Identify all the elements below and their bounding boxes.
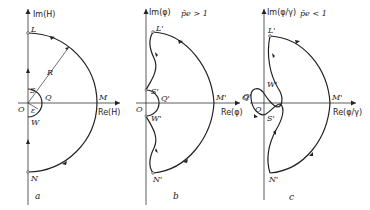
point-n-c: N' bbox=[268, 175, 278, 184]
point-o-a: O bbox=[18, 105, 25, 114]
caption-c: c bbox=[289, 192, 294, 202]
point-l-c: L' bbox=[267, 26, 276, 35]
point-s-c: S' bbox=[267, 114, 275, 123]
point-w-a: W bbox=[31, 118, 40, 127]
panel-c: Im(φ/γ) p̄e < 1 L' W' Q' O S' M' Re(φ/γ)… bbox=[243, 8, 362, 202]
point-l-a: L bbox=[30, 25, 36, 34]
panel-b: Im(φ) p̄e > 1 L' S' Q' O W' M' Re(φ) Q N… bbox=[136, 8, 249, 205]
point-l-b: L' bbox=[155, 24, 164, 33]
point-w-b: W' bbox=[151, 114, 161, 123]
axis-label-re-a: Re(H) bbox=[98, 108, 120, 117]
point-o-b: O bbox=[136, 105, 143, 114]
point-s-a: S bbox=[30, 86, 36, 95]
point-n-b: N' bbox=[152, 175, 162, 184]
condition-c: p̄e < 1 bbox=[300, 9, 327, 18]
point-q-a: Q bbox=[45, 93, 52, 102]
point-s-b: S' bbox=[151, 87, 159, 96]
panel-a: Im(H) Re(H) L S Q O ε W R M N a bbox=[18, 9, 120, 205]
point-n-a: N bbox=[30, 174, 39, 183]
point-q-c: Q' bbox=[243, 92, 252, 101]
axis-label-im-b: Im(φ) bbox=[149, 8, 171, 17]
axis-label-re-b: Re(φ) bbox=[221, 108, 243, 117]
axis-label-re-c: Re(φ/γ) bbox=[333, 108, 362, 117]
axis-label-im-c: Im(φ/γ) bbox=[267, 8, 296, 17]
caption-b: b bbox=[173, 191, 179, 201]
epsilon-label: ε bbox=[31, 106, 35, 115]
point-q-b: Q' bbox=[161, 94, 170, 103]
point-o-c: O bbox=[255, 105, 262, 114]
axis-label-im-a: Im(H) bbox=[33, 10, 55, 19]
point-m-c: M' bbox=[331, 93, 342, 102]
radius-label-r: R bbox=[46, 68, 53, 77]
point-m-a: M bbox=[98, 93, 108, 102]
nyquist-diagram: Im(H) Re(H) L S Q O ε W R M N a Im(φ) p̄… bbox=[0, 0, 370, 210]
point-w-c: W' bbox=[267, 80, 277, 89]
point-m-b: M' bbox=[215, 93, 226, 102]
condition-b: p̄e > 1 bbox=[181, 9, 208, 18]
caption-a: a bbox=[35, 191, 40, 201]
large-arc-a bbox=[28, 33, 97, 172]
